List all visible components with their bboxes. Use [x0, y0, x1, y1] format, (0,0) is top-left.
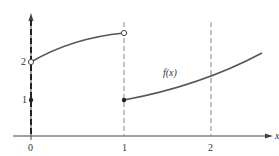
- function-graph: x f(x) 2 1 0 1 2: [0, 0, 279, 156]
- function-label: f(x): [163, 67, 178, 79]
- y-tick-2: 2: [21, 56, 26, 67]
- y-tick-1: 1: [22, 94, 27, 105]
- curve-branch-1: [31, 33, 124, 62]
- open-point-0-2: [28, 59, 33, 64]
- x-tick-0: 0: [28, 142, 33, 153]
- x-tick-2: 2: [208, 142, 213, 153]
- x-tick-1: 1: [122, 142, 127, 153]
- open-point-1-top: [121, 30, 126, 35]
- filled-point-1-1: [122, 98, 126, 102]
- x-axis-label: x: [274, 130, 279, 141]
- y-axis-arrow-icon: [29, 13, 34, 21]
- filled-point-0-1: [29, 98, 33, 102]
- curve-branch-2: [124, 53, 262, 100]
- x-axis-arrow-icon: [265, 134, 273, 139]
